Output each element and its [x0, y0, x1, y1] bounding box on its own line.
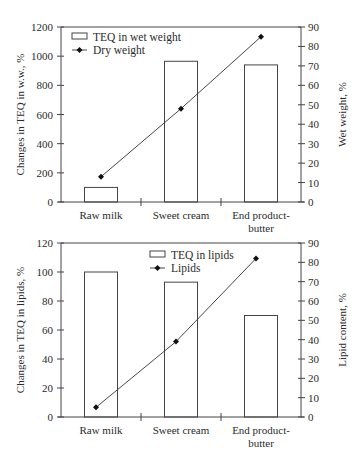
legend-line-marker [77, 47, 83, 53]
legend: TEQ in lipidsLipids [150, 249, 234, 275]
x-tick-label: Sweet cream [153, 424, 210, 436]
x-tick-label: Sweet cream [153, 209, 210, 221]
y2-tick-label: 90 [308, 237, 320, 249]
legend-bar-label: TEQ in lipids [171, 249, 234, 262]
x-tick-label: butter [248, 437, 274, 449]
y2-tick-label: 10 [308, 392, 320, 404]
x-tick-label: Raw milk [79, 424, 123, 436]
y2-tick-label: 0 [308, 411, 314, 423]
figure: 0200400600800100012000102030405060708090… [0, 0, 356, 464]
y-axis-title: Changes in TEQ in w.w., % [14, 54, 26, 176]
y2-tick-label: 10 [308, 177, 320, 189]
bar-2 [245, 316, 278, 418]
bar-1 [165, 282, 198, 417]
bar-2 [245, 65, 278, 202]
y2-tick-label: 40 [308, 118, 320, 130]
y-tick-label: 40 [42, 353, 54, 365]
y-tick-label: 0 [48, 411, 54, 423]
y2-tick-label: 60 [308, 295, 320, 307]
y2-tick-label: 40 [308, 334, 320, 346]
y-tick-label: 600 [37, 109, 54, 121]
bar-0 [85, 187, 118, 202]
x-tick-label: butter [248, 222, 274, 234]
y-tick-label: 120 [37, 237, 54, 249]
y2-tick-label: 20 [308, 372, 320, 384]
x-tick-label: End product- [232, 209, 290, 221]
y2-tick-label: 90 [308, 21, 320, 33]
y2-tick-label: 0 [308, 196, 314, 208]
y-tick-label: 400 [37, 138, 54, 150]
y-tick-label: 200 [37, 167, 54, 179]
y-tick-label: 20 [42, 382, 54, 394]
y2-tick-label: 80 [308, 256, 320, 268]
legend-bar-label: TEQ in wet weight [93, 31, 182, 44]
y2-tick-label: 80 [308, 40, 320, 52]
chart-teq-lipids: 0204060801001200102030405060708090Raw mi… [14, 237, 348, 449]
y-tick-label: 80 [42, 295, 54, 307]
x-tick-label: End product- [232, 424, 290, 436]
y2-tick-label: 60 [308, 79, 320, 91]
y2-tick-label: 30 [308, 138, 320, 150]
y-tick-label: 1000 [31, 50, 54, 62]
y-tick-label: 0 [48, 196, 54, 208]
y2-tick-label: 70 [308, 60, 320, 72]
y2-axis-title: Wet weight, % [336, 82, 348, 147]
y2-tick-label: 20 [308, 157, 320, 169]
y2-tick-label: 70 [308, 276, 320, 288]
legend: TEQ in wet weightDry weight [72, 31, 182, 57]
bar-0 [85, 272, 118, 417]
y-tick-label: 60 [42, 324, 54, 336]
legend-bar-swatch [72, 33, 87, 39]
y2-tick-label: 50 [308, 99, 320, 111]
legend-line-label: Lipids [171, 262, 201, 275]
chart-teq-wet-weight: 0200400600800100012000102030405060708090… [14, 21, 348, 234]
y2-tick-label: 30 [308, 353, 320, 365]
bar-1 [165, 61, 198, 202]
x-tick-label: Raw milk [79, 209, 123, 221]
y2-tick-label: 50 [308, 314, 320, 326]
y-tick-label: 1200 [31, 21, 54, 33]
y2-axis-title: Lipid content, % [336, 293, 348, 367]
legend-line-label: Dry weight [93, 44, 146, 57]
legend-bar-swatch [150, 251, 165, 257]
y-tick-label: 800 [37, 79, 54, 91]
y-axis-title: Changes in TEQ in lipids, % [14, 267, 26, 393]
legend-line-marker [155, 265, 161, 271]
y-tick-label: 100 [37, 266, 54, 278]
